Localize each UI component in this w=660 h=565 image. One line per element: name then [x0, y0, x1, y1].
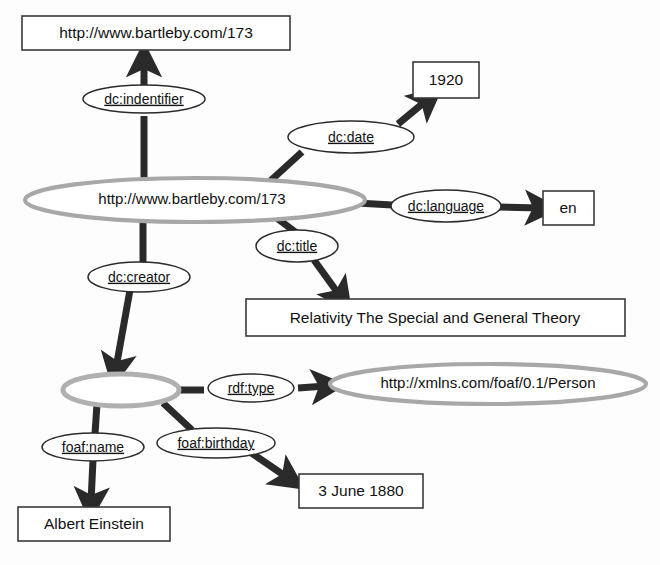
date-literal-label: 1920 [429, 71, 464, 88]
identifier-literal-label: http://www.bartleby.com/173 [59, 24, 253, 41]
person-class-label: http://xmlns.com/foaf/0.1/Person [380, 374, 595, 391]
predicate-language[interactable]: dc:language [391, 190, 501, 222]
predicate-creator[interactable]: dc:creator [88, 262, 190, 292]
predicate-identifier[interactable]: dc:indentifier [83, 85, 205, 113]
node-identifier-literal[interactable]: http://www.bartleby.com/173 [22, 16, 290, 50]
node-blank[interactable] [63, 374, 179, 406]
rdf-graph-diagram: http://www.bartleby.com/173 1920 en Rela… [0, 0, 660, 565]
predicate-date-label: dc:date [328, 129, 374, 145]
predicate-language-label: dc:language [408, 198, 485, 214]
predicate-rdf-type-label: rdf:type [228, 380, 275, 396]
predicate-title-label: dc:title [277, 238, 318, 254]
node-language-literal[interactable]: en [543, 191, 594, 225]
birthday-literal-label: 3 June 1880 [318, 482, 404, 499]
node-date-literal[interactable]: 1920 [413, 62, 479, 98]
predicate-foaf-birthday[interactable]: foaf:birthday [157, 428, 275, 458]
subject-resource-label: http://www.bartleby.com/173 [98, 190, 285, 207]
edge-creator [116, 220, 143, 368]
name-literal-label: Albert Einstein [44, 515, 144, 532]
node-name-literal[interactable]: Albert Einstein [18, 507, 170, 541]
node-person-class[interactable]: http://xmlns.com/foaf/0.1/Person [330, 364, 646, 404]
predicate-foaf-birthday-label: foaf:birthday [177, 435, 254, 451]
title-literal-label: Relativity The Special and General Theor… [290, 309, 581, 326]
node-title-literal[interactable]: Relativity The Special and General Theor… [246, 299, 625, 336]
node-subject-resource[interactable]: http://www.bartleby.com/173 [25, 178, 365, 222]
predicate-foaf-name-label: foaf:name [62, 439, 124, 455]
node-birthday-literal[interactable]: 3 June 1880 [299, 474, 423, 508]
predicate-rdf-type[interactable]: rdf:type [208, 374, 294, 402]
rdf-graph-canvas: http://www.bartleby.com/173 1920 en Rela… [0, 0, 660, 565]
language-literal-label: en [559, 199, 576, 216]
predicate-creator-label: dc:creator [108, 269, 171, 285]
predicate-identifier-label: dc:indentifier [104, 91, 184, 107]
predicate-title[interactable]: dc:title [256, 230, 338, 262]
predicate-date[interactable]: dc:date [288, 121, 414, 153]
predicate-foaf-name[interactable]: foaf:name [42, 433, 144, 461]
